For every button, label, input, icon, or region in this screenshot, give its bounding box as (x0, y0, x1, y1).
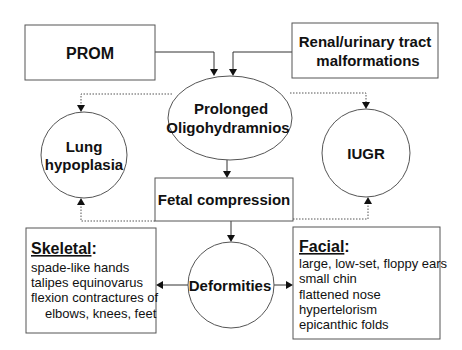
node-deformities: Deformities (188, 242, 274, 328)
arrowhead-icon (77, 198, 85, 205)
node-facial: Facial: large, low-set, floppy ears smal… (293, 227, 448, 339)
skeletal-item: flexion contractures of (31, 290, 159, 305)
fetal-label: Fetal compression (158, 191, 291, 208)
node-renal: Renal/urinary tract malformations (292, 23, 438, 78)
facial-item: flattened nose (299, 287, 381, 302)
edge-oligo-to-iugr (290, 93, 366, 103)
node-skeletal: Skeletal: spade-like hands talipes equin… (26, 228, 159, 333)
edge-fetal-to-lung (81, 204, 155, 221)
prom-label: PROM (66, 45, 114, 62)
oligohydramnios-diagram: PROM Renal/urinary tract malformations P… (0, 0, 462, 350)
arrowhead-icon (77, 105, 85, 112)
skeletal-heading: Skeletal: (31, 240, 97, 257)
lung-label-line2: hypoplasia (45, 156, 124, 173)
skeletal-item: elbows, knees, feet (45, 306, 157, 321)
edge-renal-to-oligo (233, 52, 292, 70)
arrowhead-icon (223, 171, 231, 178)
renal-label-line2: malformations (316, 52, 419, 69)
facial-item: epicanthic folds (299, 317, 389, 332)
iugr-label: IUGR (347, 145, 385, 162)
skeletal-item: spade-like hands (31, 260, 130, 275)
edge-prom-to-oligo (155, 52, 214, 70)
facial-item: large, low-set, floppy ears (299, 256, 448, 271)
edge-oligo-to-lung (81, 94, 172, 106)
node-prom: PROM (25, 25, 155, 80)
renal-label-line1: Renal/urinary tract (299, 33, 432, 50)
facial-item: small chin (299, 271, 357, 286)
node-oligohydramnios: Prolonged Oligohydramnios (166, 76, 292, 160)
node-lung-hypoplasia: Lung hypoplasia (41, 112, 127, 198)
arrowhead-icon (156, 281, 163, 289)
lung-label-line1: Lung (66, 138, 103, 155)
node-iugr: IUGR (322, 109, 410, 197)
arrowhead-icon (362, 102, 370, 109)
arrowhead-icon (210, 69, 218, 76)
deformities-label: Deformities (189, 277, 272, 294)
facial-heading: Facial: (299, 238, 350, 255)
oligo-label-line1: Prolonged (194, 100, 268, 117)
arrowhead-icon (286, 281, 293, 289)
node-fetal-compression: Fetal compression (155, 178, 293, 221)
arrowhead-icon (229, 69, 237, 76)
arrowhead-icon (227, 235, 235, 242)
facial-item: hypertelorism (299, 302, 377, 317)
skeletal-item: talipes equinovarus (31, 275, 144, 290)
arrowhead-icon (364, 197, 372, 204)
edge-fetal-to-iugr (293, 203, 368, 219)
oligo-label-line2: Oligohydramnios (166, 119, 289, 136)
